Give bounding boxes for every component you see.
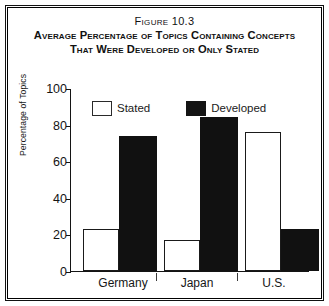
- legend-label-developed: Developed: [211, 103, 266, 115]
- bar-germany-stated: [83, 229, 119, 271]
- y-tick-label-0: 0: [60, 266, 67, 279]
- legend-swatch-developed-icon: [186, 101, 206, 116]
- figure-container: Figure 10.3 Average Percentage of Topics…: [0, 0, 329, 306]
- legend-item-stated: Stated: [92, 101, 150, 116]
- x-category-japan: Japan: [166, 277, 228, 289]
- bar-germany-developed: [119, 136, 157, 271]
- bar-japan-stated: [164, 240, 200, 271]
- x-group-separator-2: [237, 273, 238, 281]
- legend-label-stated: Stated: [117, 103, 150, 115]
- legend-item-developed: Developed: [186, 101, 266, 116]
- bar-japan-developed: [200, 117, 238, 271]
- plot-area: 0 20 40 60 80 100: [70, 89, 309, 272]
- y-axis-title: Percentage of Topics: [18, 36, 28, 156]
- bar-us-stated: [245, 132, 281, 271]
- y-tick-label-20: 20: [53, 229, 67, 242]
- y-tick-label-60: 60: [53, 156, 67, 169]
- legend-swatch-stated-icon: [92, 101, 112, 116]
- chart-legend: Stated Developed: [92, 101, 266, 116]
- chart: Percentage of Topics 0 20 40 60 80: [0, 0, 329, 306]
- bar-us-developed: [281, 229, 319, 271]
- x-category-us: U.S.: [245, 277, 303, 289]
- x-category-germany: Germany: [83, 277, 163, 289]
- y-tick-label-100: 100: [46, 83, 67, 96]
- y-tick-label-80: 80: [53, 119, 67, 132]
- y-tick-label-40: 40: [53, 193, 67, 206]
